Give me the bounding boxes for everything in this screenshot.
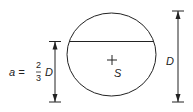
arrow-up <box>176 11 181 19</box>
center-label-S: S <box>114 68 121 79</box>
fraction-denominator: 3 <box>36 74 41 83</box>
arrow-down <box>53 94 58 102</box>
arrow-down <box>176 94 181 102</box>
arrow-up <box>53 42 58 50</box>
circle <box>67 13 156 96</box>
diameter-label-D: D <box>166 56 174 67</box>
circle-segment-diagram <box>0 0 193 112</box>
label-a-D: D <box>45 67 53 78</box>
label-a: a = <box>9 67 25 78</box>
fraction-numerator: 2 <box>36 61 41 70</box>
